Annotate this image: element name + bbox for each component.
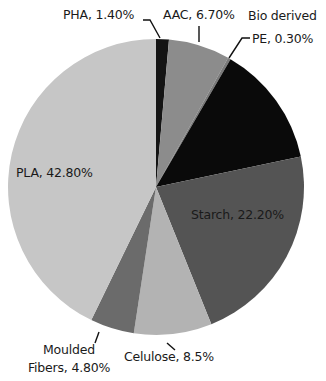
label-aac: AAC, 6.70% [163, 7, 235, 22]
label-moulded-fibers-line1: Moulded [43, 342, 95, 357]
label-celulose: Celulose, 8.5% [124, 349, 214, 364]
leader-line-pha [143, 20, 160, 38]
label-starch: Starch, 22.20% [191, 207, 284, 222]
leader-line-moulded [95, 332, 99, 343]
label-pha: PHA, 1.40% [63, 7, 134, 22]
pie-slices [8, 39, 304, 335]
leader-line-pe [229, 38, 250, 58]
label-bio-derived-pe-line1: Bio derived [248, 8, 317, 23]
label-moulded-fibers-line2: Fibers, 4.80% [28, 360, 110, 375]
label-pla: PLA, 42.80% [16, 165, 93, 180]
pie-chart: PHA, 1.40% AAC, 6.70% Bio derived PE, 0.… [0, 0, 326, 381]
label-bio-derived-pe-line2: PE, 0.30% [252, 31, 314, 46]
